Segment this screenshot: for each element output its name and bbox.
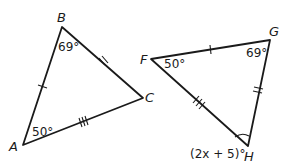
congruent-triangles-diagram: A B C 69° 50° F G H 50° 69° (2x + 5)°	[0, 0, 291, 168]
vertex-label-c: C	[145, 90, 155, 105]
vertex-label-h: H	[244, 149, 254, 164]
triangle-abc: A B C 69° 50°	[8, 10, 155, 154]
angle-a-label: 50°	[32, 125, 53, 139]
triangle-fgh: F G H 50° 69° (2x + 5)°	[140, 24, 279, 164]
tick-gh	[253, 87, 263, 93]
vertex-label-g: G	[269, 24, 279, 39]
angle-g-label: 69°	[246, 46, 267, 60]
vertex-label-b: B	[57, 10, 66, 25]
angle-h-label: (2x + 5)°	[190, 147, 245, 161]
vertex-label-f: F	[140, 52, 148, 67]
tick-ac	[79, 116, 88, 127]
vertex-label-a: A	[8, 139, 18, 154]
angle-f-label: 50°	[164, 57, 185, 71]
tick-fg	[210, 45, 211, 54]
angle-b-label: 69°	[58, 40, 79, 54]
